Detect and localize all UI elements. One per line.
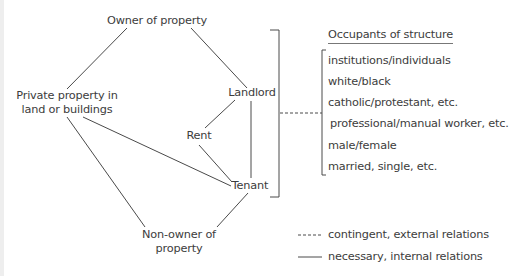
small-bracket bbox=[322, 50, 326, 175]
node-private-property-line1: Private property in bbox=[16, 89, 117, 103]
occupants-header: Occupants of structure bbox=[328, 28, 453, 44]
node-landlord: Landlord bbox=[228, 86, 276, 100]
node-non-owner-line1: Non-owner of bbox=[142, 228, 216, 242]
node-owner: Owner of property bbox=[107, 14, 207, 28]
line-owner-landlord bbox=[191, 28, 247, 88]
line-landlord-rent bbox=[205, 100, 235, 128]
occupant-item: institutions/individuals bbox=[328, 54, 451, 68]
line-private-tenant bbox=[83, 117, 231, 186]
line-owner-private bbox=[67, 28, 127, 89]
occupant-item: male/female bbox=[328, 139, 397, 153]
node-tenant: Tenant bbox=[232, 179, 268, 193]
occupant-item: married, single, etc. bbox=[328, 160, 437, 174]
node-non-owner-line2: property bbox=[156, 242, 203, 256]
line-rent-tenant bbox=[199, 145, 232, 182]
legend-solid-label: necessary, internal relations bbox=[328, 250, 483, 264]
occupant-item: professional/manual worker, etc. bbox=[330, 117, 509, 131]
node-private-property-line2: land or buildings bbox=[22, 103, 113, 117]
occupant-item: catholic/protestant, etc. bbox=[328, 96, 458, 110]
large-bracket bbox=[270, 30, 279, 197]
node-rent: Rent bbox=[186, 129, 211, 143]
line-tenant-nonowner bbox=[217, 193, 248, 227]
legend-dashed-label: contingent, external relations bbox=[328, 228, 489, 242]
occupant-item: white/black bbox=[328, 75, 391, 89]
line-private-nonowner bbox=[67, 117, 145, 227]
